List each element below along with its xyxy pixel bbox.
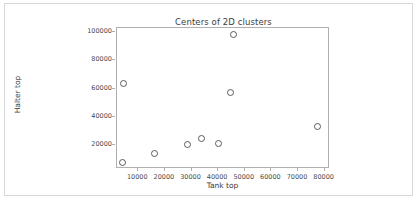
y-tick-label: 20000 <box>91 140 112 148</box>
x-tick-label: 50000 <box>233 173 254 181</box>
y-tick-label: 80000 <box>91 55 112 63</box>
x-tick-mark <box>324 168 325 171</box>
y-tick-mark <box>112 88 115 89</box>
x-tick-mark <box>137 168 138 171</box>
y-axis-label: Halter top <box>13 65 22 125</box>
x-tick-mark <box>244 168 245 171</box>
x-tick-mark <box>217 168 218 171</box>
y-tick-mark <box>112 31 115 32</box>
x-tick-mark <box>164 168 165 171</box>
y-tick-mark <box>112 59 115 60</box>
y-tick-label: 100000 <box>87 27 112 35</box>
x-tick-mark <box>191 168 192 171</box>
y-tick-label: 60000 <box>91 84 112 92</box>
chart-title: Centers of 2D clusters <box>116 17 331 27</box>
figure-panel: Centers of 2D clusters 20000400006000080… <box>4 3 413 196</box>
y-tick-mark <box>112 116 115 117</box>
x-tick-label: 20000 <box>154 173 175 181</box>
plot-canvas: Centers of 2D clusters 20000400006000080… <box>5 4 414 197</box>
x-tick-label: 30000 <box>180 173 201 181</box>
x-tick-label: 70000 <box>287 173 308 181</box>
x-tick-label: 60000 <box>260 173 281 181</box>
y-tick-mark <box>112 144 115 145</box>
x-tick-label: 40000 <box>207 173 228 181</box>
x-axis-label: Tank top <box>116 181 329 190</box>
x-tick-label: 80000 <box>313 173 334 181</box>
y-tick-label: 40000 <box>91 112 112 120</box>
y-axis-tick-labels: 20000400006000080000100000 <box>81 27 112 168</box>
x-tick-mark <box>270 168 271 171</box>
axes-frame <box>116 27 329 168</box>
x-tick-label: 10000 <box>127 173 148 181</box>
x-tick-mark <box>297 168 298 171</box>
